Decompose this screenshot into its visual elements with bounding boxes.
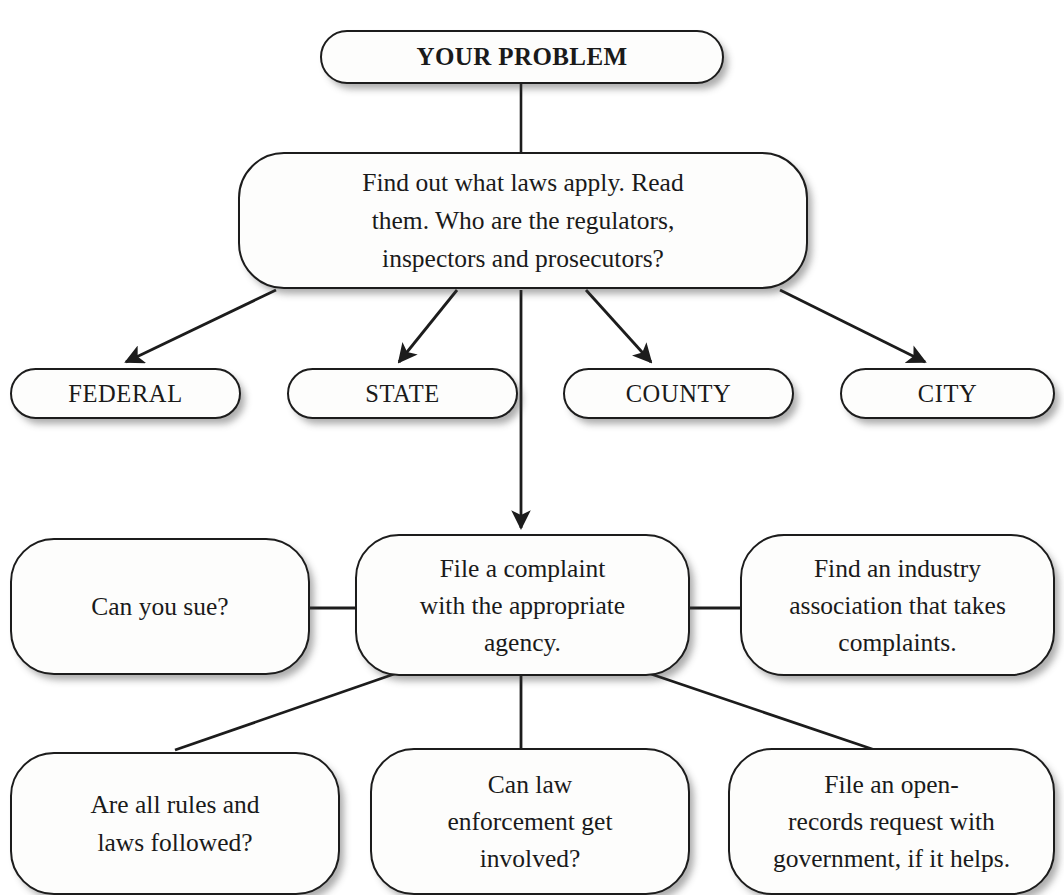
edge-findlaws-to-city [780,290,925,362]
node-city[interactable]: CITY [840,368,1055,419]
node-your-problem[interactable]: YOUR PROBLEM [320,30,724,84]
node-county-label: COUNTY [565,380,792,408]
node-find-laws[interactable]: Find out what laws apply. Read them. Who… [238,152,808,289]
node-federal-label: FEDERAL [12,380,239,408]
node-can-you-sue[interactable]: Can you sue? [10,538,310,675]
edge-findlaws-to-county [586,290,651,362]
node-industry-association-label: Find an industry association that takes … [742,550,1053,661]
node-city-label: CITY [842,380,1053,408]
node-open-records-label: File an open- records request with gover… [730,766,1053,877]
node-rules-followed[interactable]: Are all rules and laws followed? [10,752,340,895]
node-find-laws-label: Find out what laws apply. Read them. Who… [240,164,806,278]
node-law-enforcement[interactable]: Can law enforcement get involved? [370,748,690,895]
node-rules-followed-label: Are all rules and laws followed? [12,786,338,862]
edge-filecomplaint-to-rules [175,672,400,750]
node-law-enforcement-label: Can law enforcement get involved? [372,766,688,877]
node-open-records[interactable]: File an open- records request with gover… [728,748,1055,895]
node-state[interactable]: STATE [287,368,518,419]
node-can-you-sue-label: Can you sue? [12,592,308,622]
node-your-problem-label: YOUR PROBLEM [322,43,722,71]
flowchart-canvas: YOUR PROBLEM Find out what laws apply. R… [0,0,1064,895]
edge-findlaws-to-state [399,290,457,362]
edge-findlaws-to-federal [126,290,276,362]
node-file-complaint-label: File a complaint with the appropriate ag… [357,550,688,661]
node-state-label: STATE [289,380,516,408]
node-federal[interactable]: FEDERAL [10,368,241,419]
edge-filecomplaint-to-openrecords [645,672,875,750]
node-file-complaint[interactable]: File a complaint with the appropriate ag… [355,534,690,676]
node-industry-association[interactable]: Find an industry association that takes … [740,534,1055,676]
node-county[interactable]: COUNTY [563,368,794,419]
